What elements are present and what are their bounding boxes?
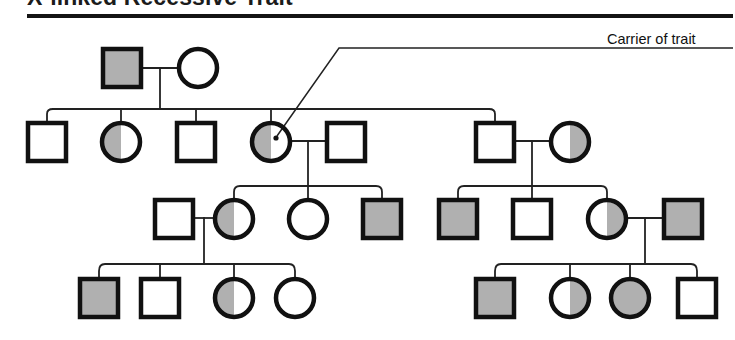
person-II-7-carrier-female[interactable] — [551, 123, 589, 161]
person-III-2-carrier-female[interactable] — [215, 200, 253, 238]
person-III-7-carrier-female[interactable] — [588, 200, 626, 238]
person-IV-5-affected-male[interactable] — [476, 279, 514, 317]
person-II-6-unaffected-male[interactable] — [476, 123, 514, 161]
person-III-6-unaffected-male[interactable] — [513, 200, 551, 238]
sibship-bar-IV-right — [495, 264, 697, 278]
person-II-5-unaffected-male[interactable] — [327, 123, 365, 161]
person-IV-2-unaffected-male[interactable] — [141, 279, 179, 317]
person-IV-1-affected-male[interactable] — [80, 279, 118, 317]
person-IV-8-unaffected-male[interactable] — [678, 279, 716, 317]
person-II-3-unaffected-male[interactable] — [177, 123, 215, 161]
person-III-3-unaffected-female[interactable] — [289, 200, 327, 238]
person-III-1-unaffected-male[interactable] — [155, 200, 193, 238]
legend-pointer-dot — [273, 135, 278, 140]
person-II-1-unaffected-male[interactable] — [28, 123, 66, 161]
person-IV-3-carrier-female[interactable] — [215, 279, 253, 317]
generation-IV — [80, 279, 716, 317]
person-I-1-affected-male[interactable] — [103, 49, 141, 87]
sibship-bar-IV-left — [99, 264, 295, 278]
person-IV-7-affected-female[interactable] — [611, 279, 649, 317]
connector-lines — [47, 68, 697, 279]
person-I-2-unaffected-female[interactable] — [179, 49, 217, 87]
person-II-4-carrier-female[interactable] — [252, 123, 290, 161]
person-III-5-affected-male[interactable] — [439, 200, 477, 238]
person-III-4-affected-male[interactable] — [363, 200, 401, 238]
pedigree-diagram — [0, 0, 735, 340]
person-II-2-carrier-female[interactable] — [102, 123, 140, 161]
person-IV-4-unaffected-female[interactable] — [276, 279, 314, 317]
person-IV-6-carrier-female[interactable] — [551, 279, 589, 317]
generation-III — [155, 200, 702, 238]
person-III-8-affected-male[interactable] — [664, 200, 702, 238]
pedigree-page: X-linked Recessive Trait Carrier of trai… — [0, 0, 735, 340]
